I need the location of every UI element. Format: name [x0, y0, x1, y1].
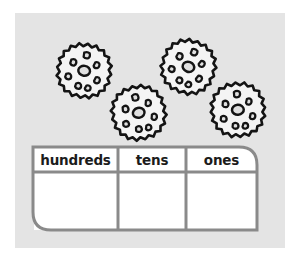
- gear-group: [15, 13, 285, 153]
- worksheet-panel: hundreds tens ones: [15, 13, 285, 248]
- place-value-chart: hundreds tens ones: [33, 147, 257, 230]
- gear-cookie-icon: [204, 77, 271, 144]
- column-header-hundreds: hundreds: [33, 147, 118, 172]
- worksheet-page: hundreds tens ones: [0, 0, 297, 264]
- gear-item-4: [204, 77, 271, 144]
- column-header-tens: tens: [118, 147, 186, 172]
- column-header-ones: ones: [186, 147, 257, 172]
